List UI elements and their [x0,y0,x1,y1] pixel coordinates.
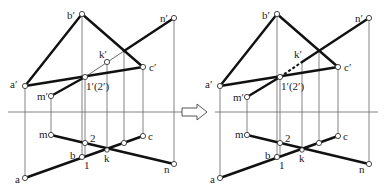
label-n: n [359,163,365,175]
edge-a-prime-b-prime [220,14,277,86]
label-a: a [210,173,215,185]
label-c: c [343,130,348,142]
label-k: k [104,152,110,164]
label-2: 2 [90,132,96,144]
projection-diagram: a′ b′ c′ n′ m′ k′ 1′(2′) a b c m n k 1 2 [0,0,386,191]
right-view: a′ b′ c′ n′ m′ k′ 1′(2′) a b c m n k 1 2 [205,9,378,185]
label-n-prime: n′ [160,12,168,24]
label-n-prime: n′ [355,12,363,24]
label-k-prime: k′ [294,48,302,60]
label-m-prime: m′ [37,90,48,102]
label-m: m [235,128,244,140]
label-a-prime: a′ [205,78,212,90]
label-b: b [70,149,76,161]
label-k-prime: k′ [99,48,107,60]
edge-a-prime-b-prime [25,14,82,86]
label-m: m [39,128,48,140]
label-1: 1 [84,159,90,171]
label-c-prime: c′ [149,61,156,73]
label-2: 2 [285,132,291,144]
label-c-prime: c′ [344,61,351,73]
label-1: 1 [279,159,285,171]
hollow-right-arrow-icon [182,104,207,120]
line-k-prime-n-prime [302,18,369,62]
label-1-prime-2-prime: 1′(2′) [86,80,109,93]
label-1-prime-2-prime: 1′(2′) [281,80,304,93]
left-view: a′ b′ c′ n′ m′ k′ 1′(2′) a b c m n k 1 2 [8,9,183,185]
label-b-prime: b′ [67,9,75,21]
label-c: c [148,130,153,142]
label-k: k [299,152,305,164]
label-a-prime: a′ [10,78,17,90]
label-n: n [164,163,170,175]
label-b-prime: b′ [262,9,270,21]
label-a: a [15,173,20,185]
label-b: b [265,149,271,161]
label-m-prime: m′ [233,91,244,103]
